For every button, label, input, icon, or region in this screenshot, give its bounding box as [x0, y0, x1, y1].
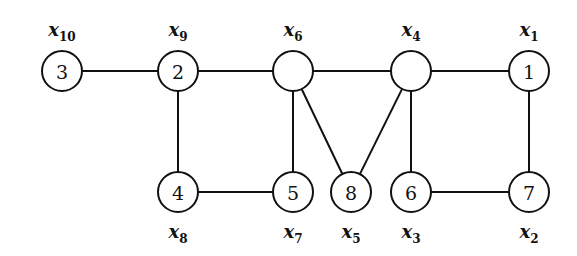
graph-diagram: 3x102x9x6x41x14x85x78x56x37x2 [0, 0, 577, 256]
graph-node: 6x3 [391, 172, 431, 246]
graph-node: 5x7 [273, 172, 313, 246]
node-label: 6 [405, 182, 417, 204]
variable-label: x1 [518, 19, 538, 44]
node-circle [391, 51, 431, 91]
edge-c-h [302, 89, 343, 174]
node-label: 5 [287, 182, 299, 204]
graph-node: x4 [391, 19, 431, 91]
variable-label: x4 [400, 19, 420, 44]
graph-node: 1x1 [509, 19, 549, 91]
node-label: 2 [172, 61, 184, 83]
graph-node: 4x8 [158, 172, 198, 246]
graph-node: 7x2 [509, 172, 549, 246]
variable-label: x10 [47, 19, 75, 44]
node-label: 3 [56, 61, 68, 83]
graph-node: 8x5 [331, 172, 371, 246]
variable-label: x9 [167, 19, 187, 44]
edges-layer [82, 71, 529, 192]
node-label: 7 [523, 182, 535, 204]
variable-label: x3 [400, 221, 420, 246]
graph-node: 3x10 [42, 19, 82, 91]
nodes-layer: 3x102x9x6x41x14x85x78x56x37x2 [42, 19, 549, 246]
graph-node: x6 [273, 19, 313, 91]
node-label: 8 [345, 182, 357, 204]
node-circle [273, 51, 313, 91]
variable-label: x5 [340, 221, 360, 246]
variable-label: x7 [282, 221, 302, 246]
variable-label: x6 [282, 19, 302, 44]
graph-node: 2x9 [158, 19, 198, 91]
edge-d-h [360, 89, 402, 174]
node-label: 4 [172, 182, 184, 204]
variable-label: x2 [518, 221, 538, 246]
node-label: 1 [523, 61, 535, 83]
variable-label: x8 [167, 221, 187, 246]
